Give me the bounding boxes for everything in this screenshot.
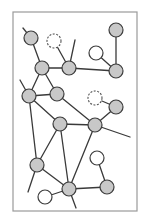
node-O-white	[90, 151, 104, 165]
node-D-gray	[62, 61, 76, 75]
node-M-gray	[88, 118, 102, 132]
node-F-gray	[109, 23, 123, 37]
node-I-gray	[50, 87, 64, 101]
node-A-gray	[24, 31, 38, 45]
node-P-gray	[62, 182, 76, 196]
node-G-gray	[109, 64, 123, 78]
node-K-gray	[109, 100, 123, 114]
network-diagram	[0, 0, 147, 224]
node-E-white	[89, 46, 103, 60]
node-J-dashed	[88, 91, 102, 105]
node-N-gray	[30, 158, 44, 172]
node-Q-white	[38, 190, 52, 204]
node-L-gray	[53, 117, 67, 131]
node-R-gray	[100, 180, 114, 194]
node-B-dashed	[47, 34, 61, 48]
node-H-gray	[22, 89, 36, 103]
node-C-gray	[35, 61, 49, 75]
